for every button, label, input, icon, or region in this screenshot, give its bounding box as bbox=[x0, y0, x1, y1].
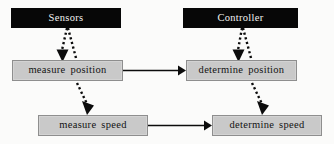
node-determine-position-label: determine position bbox=[199, 65, 285, 76]
edge-measure-speed-to-determine-speed bbox=[148, 121, 212, 131]
node-measure-speed-label: measure speed bbox=[59, 120, 126, 131]
node-determine-speed[interactable]: determine speed bbox=[212, 115, 322, 136]
node-sensors[interactable]: Sensors bbox=[11, 8, 121, 28]
node-determine-position[interactable]: determine position bbox=[186, 60, 297, 81]
node-measure-position[interactable]: measure position bbox=[12, 60, 123, 81]
node-controller-label: Controller bbox=[217, 13, 263, 24]
node-sensors-label: Sensors bbox=[49, 13, 84, 24]
edge-measure-position-to-determine-position bbox=[123, 66, 186, 76]
diagram-canvas: Sensors Controller measure position dete… bbox=[0, 0, 334, 144]
node-measure-speed[interactable]: measure speed bbox=[38, 115, 148, 136]
edge-controller-to-determine-position bbox=[233, 28, 245, 62]
node-measure-position-label: measure position bbox=[28, 65, 106, 76]
node-determine-speed-label: determine speed bbox=[229, 120, 304, 131]
node-controller[interactable]: Controller bbox=[183, 8, 298, 28]
edge-sensors-to-measure-position bbox=[57, 28, 69, 62]
